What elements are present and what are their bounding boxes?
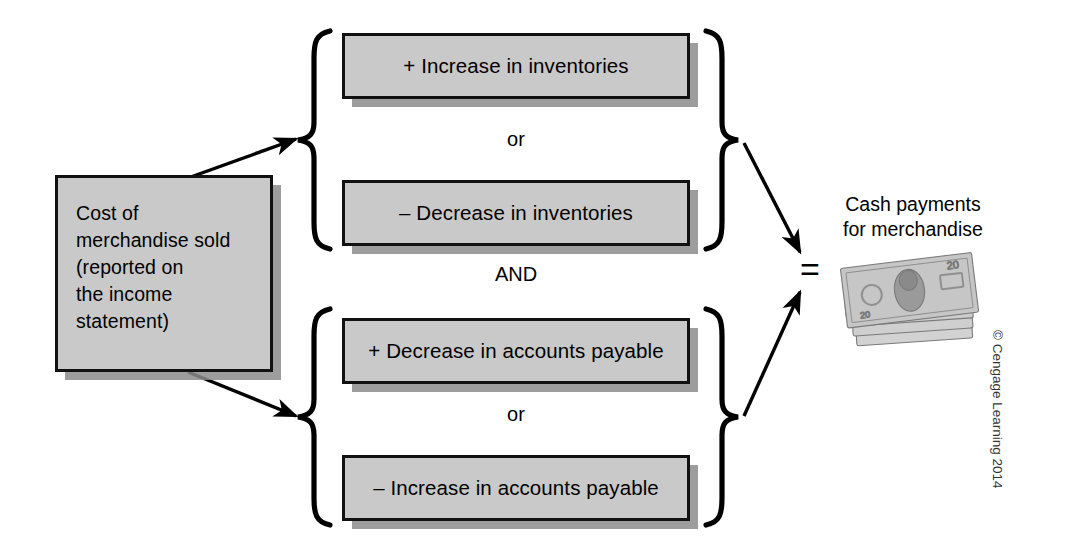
source-line-4: the income — [76, 281, 230, 308]
source-line-2: merchandise sold — [76, 227, 230, 254]
option-label: – Decrease in inventories — [345, 201, 687, 225]
result-line-1: Cash payments — [818, 192, 1008, 217]
arrow-accounts-payable-to-result — [744, 292, 800, 416]
source-box-text: Cost of merchandise sold (reported on th… — [76, 200, 230, 335]
result-label: Cash payments for merchandise — [818, 192, 1008, 242]
option-label: + Increase in inventories — [345, 54, 687, 78]
result-line-2: for merchandise — [818, 217, 1008, 242]
source-line-3: (reported on — [76, 254, 230, 281]
connector-or-accounts-payable: or — [342, 403, 690, 426]
option-label: + Decrease in accounts payable — [345, 339, 687, 363]
figure-canvas: Cost of merchandise sold (reported on th… — [0, 0, 1075, 553]
equals-sign: = — [800, 252, 820, 286]
svg-text:20: 20 — [860, 309, 871, 320]
bill-denomination: 20 — [946, 258, 960, 271]
source-line-1: Cost of — [76, 200, 230, 227]
copyright-credit: © Cengage Learning 2014 — [990, 330, 1005, 489]
source-box-cost-of-merchandise-sold: Cost of merchandise sold (reported on th… — [55, 175, 273, 372]
arrow-inventories-to-result — [744, 143, 800, 252]
source-line-5: statement) — [76, 308, 230, 335]
option-box-decrease-in-accounts-payable: + Decrease in accounts payable — [342, 318, 690, 384]
arrow-source-to-accounts-payable — [188, 372, 296, 416]
connector-and: AND — [342, 263, 690, 286]
connector-or-inventories: or — [342, 128, 690, 151]
option-box-increase-in-inventories: + Increase in inventories — [342, 33, 690, 99]
arrow-source-to-inventories — [188, 139, 296, 178]
option-box-increase-in-accounts-payable: – Increase in accounts payable — [342, 455, 690, 521]
option-box-decrease-in-inventories: – Decrease in inventories — [342, 180, 690, 246]
option-label: – Increase in accounts payable — [345, 476, 687, 500]
money-stack-icon: 20 20 — [838, 252, 986, 350]
